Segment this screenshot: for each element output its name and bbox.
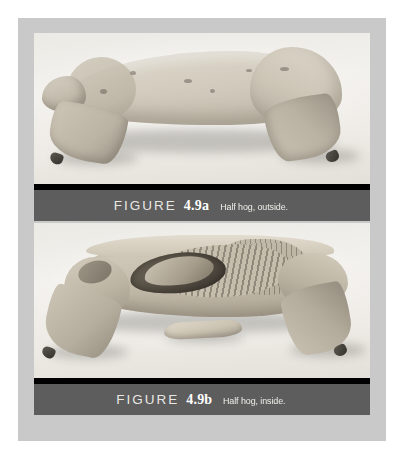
caption-4-9b: FIGURE 4.9b Half hog, inside.	[116, 392, 288, 408]
figure-block-4-9b: FIGURE 4.9b Half hog, inside.	[34, 223, 370, 415]
caption-label-prefix: FIGURE	[116, 392, 179, 407]
caption-label-prefix: FIGURE	[114, 198, 177, 213]
caption-figure-number: 4.9a	[184, 198, 209, 214]
caption-band-4-9a: FIGURE 4.9a Half hog, outside.	[34, 190, 370, 221]
figure-block-4-9a: FIGURE 4.9a Half hog, outside.	[34, 33, 370, 221]
caption-description: Half hog, inside.	[223, 395, 285, 406]
skin-blemish	[280, 67, 289, 71]
skin-blemish	[210, 89, 215, 93]
caption-description: Half hog, outside.	[220, 201, 288, 212]
photograph-half-hog-outside	[34, 33, 370, 184]
skin-blemish	[184, 79, 192, 83]
skin-blemish	[100, 89, 107, 94]
caption-band-4-9b: FIGURE 4.9b Half hog, inside.	[34, 384, 370, 415]
gray-mount-frame: FIGURE 4.9a Half hog, outside.	[18, 18, 386, 441]
caption-figure-number: 4.9b	[186, 392, 212, 408]
skin-blemish	[246, 69, 252, 72]
figure-page: FIGURE 4.9a Half hog, outside.	[0, 0, 405, 457]
photograph-half-hog-inside	[34, 223, 370, 378]
caption-4-9a: FIGURE 4.9a Half hog, outside.	[114, 198, 290, 214]
skin-blemish	[130, 71, 136, 75]
